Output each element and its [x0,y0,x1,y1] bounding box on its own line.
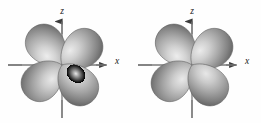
d-orbital-diagram-right: z x [130,0,260,123]
z-axis-label: z [59,6,64,16]
d-orbital-diagram-left: z x [0,0,130,123]
orbital-figure-panel: z x [0,0,261,123]
z-axis-label: z [189,6,194,16]
x-axis-label: x [114,56,120,66]
x-axis-label: x [244,56,250,66]
